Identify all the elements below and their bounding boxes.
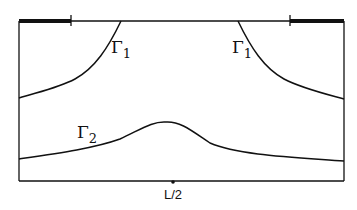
- gamma1-right-curve: [238, 21, 344, 99]
- gamma2-curve: [19, 122, 344, 161]
- gamma1-left-curve: [19, 21, 121, 98]
- channel-diagram: Γ1 Γ1 Γ2 L/2: [0, 0, 357, 210]
- gamma2-label: Γ2: [77, 122, 97, 146]
- midpoint-marker: [171, 180, 175, 184]
- gamma1-left-label: Γ1: [111, 37, 131, 61]
- midpoint-label: L/2: [164, 187, 182, 202]
